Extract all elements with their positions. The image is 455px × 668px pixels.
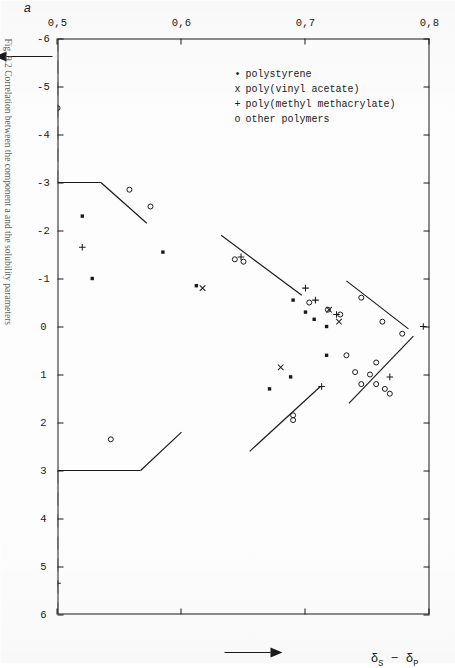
filled-square-marker [303,310,306,313]
y-tick-right [56,608,57,614]
x-tick [57,134,63,135]
open-circle-marker [126,187,131,192]
x-tick-top [423,518,429,519]
x-tick-label: 6 [40,608,47,620]
legend-item: xpoly(vinyl acetate) [229,83,359,94]
y-tick [56,38,57,44]
open-circle-marker [387,391,392,396]
x-tick-label: -5 [36,80,49,92]
trend-line [346,280,408,328]
cross-marker [336,318,342,324]
x-tick [57,326,63,327]
x-tick-label: -6 [36,32,49,44]
plus-marker [57,580,60,587]
plus-marker [302,284,309,291]
y-tick [428,38,429,44]
series-open-circle [57,105,404,441]
legend-item-label: poly(vinyl acetate) [245,83,359,94]
open-circle-marker [108,436,113,441]
filled-square-marker [80,214,83,217]
y-tick-label: 0,7 [295,16,315,28]
x-tick [57,230,63,231]
filled-square-marker [288,375,291,378]
trend-line [249,386,320,451]
x-tick-top [423,326,429,327]
x-tick-top [423,470,429,471]
filled-square-marker [90,276,93,279]
legend-item-label: other polymers [245,113,329,124]
x-tick-label: -3 [36,176,49,188]
plus-marker: + [229,98,245,109]
series-filled-square [80,214,328,390]
plus-marker [386,373,393,380]
x-axis-arrow-icon [222,645,282,659]
legend-item-label: poly(methyl methacrylate) [245,98,395,109]
filled-square-marker [312,317,315,320]
y-tick-right [180,608,181,614]
x-tick-label: 5 [40,560,47,572]
filled-square-marker [324,324,327,327]
figure-caption: Fig. 9.2 Correlation between the compone… [2,38,12,638]
x-tick-top [423,230,429,231]
cross-marker: x [229,83,245,94]
x-tick [57,182,63,183]
x-tick-top [423,182,429,183]
open-circle-marker [367,372,372,377]
open-circle-marker [352,369,357,374]
filled-square-marker [324,353,327,356]
x-tick [57,86,63,87]
x-tick [57,518,63,519]
x-tick-top [423,86,429,87]
plus-marker [312,296,319,303]
x-tick-label: -2 [36,224,49,236]
x-tick-label: -1 [36,272,49,284]
trend-line [348,336,412,403]
y-tick [180,38,181,44]
open-circle-marker [379,319,384,324]
plus-marker [237,253,244,260]
y-tick-right [428,608,429,614]
legend-item: •polystyrene [229,68,311,79]
y-tick-right [304,608,305,614]
open-circle-marker: o [229,113,245,124]
y-tick [304,38,305,44]
open-circle-marker [290,417,295,422]
x-tick-top [423,278,429,279]
x-tick-label: 3 [40,464,47,476]
y-tick-label: 0,8 [419,16,439,28]
x-tick [57,566,63,567]
x-tick-label: 4 [40,512,47,524]
x-tick-label: 1 [40,368,47,380]
x-tick [57,470,63,471]
open-circle-marker [358,295,363,300]
trend-line [140,432,181,470]
x-axis-title: δS − δP [370,652,418,668]
y-tick-label: 0,6 [171,16,191,28]
filled-square-marker [161,250,164,253]
open-circle-marker [382,386,387,391]
x-tick-label: 2 [40,416,47,428]
open-circle-marker [343,352,348,357]
filled-square-marker [291,298,294,301]
x-tick [57,422,63,423]
x-tick-top [423,134,429,135]
legend-item-label: polystyrene [245,68,311,79]
x-tick [57,374,63,375]
trend-line [221,235,302,295]
x-tick-top [423,422,429,423]
x-tick [57,614,63,615]
x-tick-top [423,566,429,567]
cross-marker [199,285,205,291]
open-circle-marker [232,256,237,261]
legend-item: oother polymers [229,113,329,124]
legend-item: +poly(methyl methacrylate) [229,98,395,109]
x-tick-label: -4 [36,128,49,140]
open-circle-marker [306,300,311,305]
x-tick [57,38,63,39]
open-circle-marker [148,204,153,209]
x-tick [57,278,63,279]
y-axis-title: a [23,1,31,15]
series-plus [57,244,426,587]
filled-square-marker [267,387,270,390]
